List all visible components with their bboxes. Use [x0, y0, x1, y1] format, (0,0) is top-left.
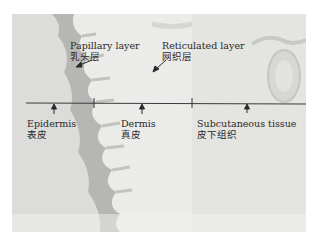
dermis-en: Dermis [121, 118, 156, 129]
papillary-layer-label: Papillary layer 乳头层 [70, 40, 140, 62]
reticulated-layer-en: Reticulated layer [162, 40, 245, 51]
dermis-cn: 真皮 [121, 129, 156, 140]
subcutaneous-tissue-en: Subcutaneous tissue [197, 118, 296, 129]
papillary-layer-cn: 乳头层 [70, 51, 140, 62]
subcutaneous-tissue-cn: 皮下组织 [197, 129, 296, 140]
epidermis-cn: 表皮 [27, 129, 76, 140]
subcutaneous-tissue-label: Subcutaneous tissue 皮下组织 [197, 118, 296, 140]
papillary-layer-en: Papillary layer [70, 40, 140, 51]
epidermis-label: Epidermis 表皮 [27, 118, 76, 140]
skin-histology-figure: Papillary layer 乳头层 Reticulated layer 网织… [0, 0, 316, 245]
reticulated-layer-label: Reticulated layer 网织层 [162, 40, 245, 62]
reticulated-layer-cn: 网织层 [162, 51, 245, 62]
epidermis-en: Epidermis [27, 118, 76, 129]
dermis-label: Dermis 真皮 [121, 118, 156, 140]
